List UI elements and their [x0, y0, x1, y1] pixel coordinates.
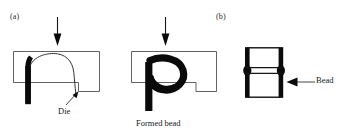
panel-label-b: (b): [216, 12, 226, 21]
figure-artwork: [0, 0, 343, 137]
stage-die-with-tube: [14, 17, 100, 105]
down-arrow-icon-left: [54, 17, 62, 46]
tube-wall-left-stem: [25, 66, 31, 104]
die-label: Die: [58, 106, 70, 116]
leader-arrow-icon-bead: [287, 78, 316, 87]
bead-bulge-left: [243, 65, 251, 75]
panel-label-a: (a): [10, 12, 19, 21]
bead-bulge-right: [277, 65, 285, 75]
tube-body-outline: [248, 48, 280, 98]
finished-beaded-tube: [243, 48, 315, 98]
leader-arrow-icon-die: [66, 91, 78, 105]
formed-bead-shape: [149, 58, 184, 111]
stage-die-with-formed-bead: [132, 17, 217, 111]
down-arrow-icon-right: [162, 17, 170, 46]
formed-bead-label: Formed bead: [136, 118, 181, 128]
tube-bead-forming-figure: (a) (b) Die Formed bead Bead: [0, 0, 343, 137]
bead-label: Bead: [316, 75, 333, 85]
tube-cavity-profile: [29, 54, 76, 94]
